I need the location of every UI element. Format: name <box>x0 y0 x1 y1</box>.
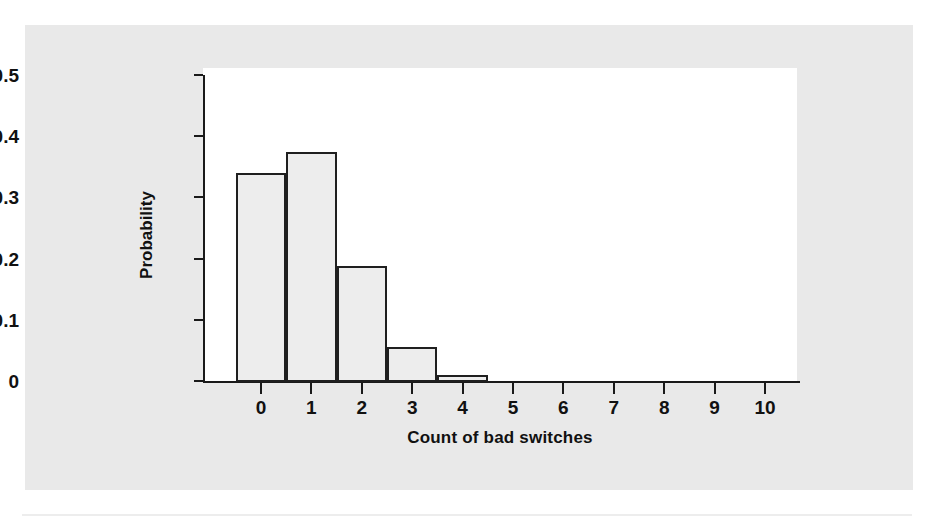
x-tick-8 <box>663 383 665 394</box>
bar-1 <box>286 152 336 383</box>
x-tick-label: 10 <box>754 397 775 419</box>
x-tick-label: 3 <box>407 397 418 419</box>
x-tick-label: 6 <box>558 397 569 419</box>
x-tick-label: 7 <box>609 397 620 419</box>
x-tick-4 <box>462 383 464 394</box>
y-tick-0.5 <box>194 74 203 76</box>
x-tick-3 <box>411 383 413 394</box>
figure-panel: 0.50.40.30.20.10 012345678910 Count of b… <box>25 25 913 490</box>
bar-0 <box>236 173 286 382</box>
bar-4 <box>437 375 487 382</box>
x-tick-label: 8 <box>659 397 670 419</box>
y-tick-0.2 <box>194 258 203 260</box>
y-tick-label: 0.3 <box>0 187 19 209</box>
y-tick-0.4 <box>194 135 203 137</box>
x-tick-label: 5 <box>508 397 519 419</box>
x-axis-title: Count of bad switches <box>203 428 797 448</box>
x-tick-label: 0 <box>256 397 267 419</box>
x-tick-5 <box>512 383 514 394</box>
x-tick-label: 1 <box>306 397 317 419</box>
y-tick-label: 0 <box>8 371 19 393</box>
bar-2 <box>337 266 387 382</box>
x-tick-6 <box>562 383 564 394</box>
x-tick-0 <box>260 383 262 394</box>
x-tick-7 <box>613 383 615 394</box>
y-tick-label: 0.4 <box>0 126 19 148</box>
y-tick-0 <box>194 380 203 382</box>
x-tick-1 <box>310 383 312 394</box>
y-axis-line <box>203 75 205 382</box>
x-tick-label: 4 <box>457 397 468 419</box>
bar-3 <box>387 347 437 382</box>
x-tick-10 <box>764 383 766 394</box>
y-tick-label: 0.1 <box>0 310 19 332</box>
y-axis-title: Probability <box>137 191 157 279</box>
x-tick-label: 9 <box>709 397 720 419</box>
y-tick-0.1 <box>194 319 203 321</box>
y-tick-0.3 <box>194 196 203 198</box>
x-tick-9 <box>714 383 716 394</box>
page-divider-rule <box>22 514 912 516</box>
y-tick-label: 0.5 <box>0 65 19 87</box>
x-tick-label: 2 <box>357 397 368 419</box>
x-tick-2 <box>361 383 363 394</box>
y-tick-label: 0.2 <box>0 249 19 271</box>
